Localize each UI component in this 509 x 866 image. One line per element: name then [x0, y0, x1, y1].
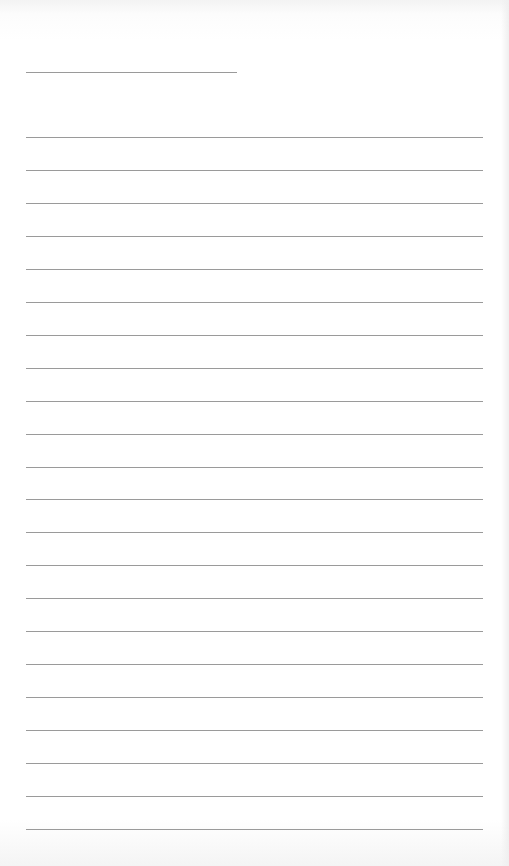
ruled-line	[26, 565, 483, 566]
ruled-line	[26, 236, 483, 237]
ruled-line	[26, 763, 483, 764]
ruled-line	[26, 170, 483, 171]
ruled-line	[26, 269, 483, 270]
ruled-line	[26, 631, 483, 632]
ruled-line	[26, 137, 483, 138]
ruled-line	[26, 368, 483, 369]
ruled-line	[26, 598, 483, 599]
ruled-line	[26, 664, 483, 665]
ruled-line	[26, 532, 483, 533]
ruled-line	[26, 697, 483, 698]
ruled-line	[26, 302, 483, 303]
lined-paper-sheet	[0, 0, 509, 866]
header-line	[26, 72, 237, 73]
ruled-line	[26, 796, 483, 797]
ruled-line	[26, 467, 483, 468]
ruled-line	[26, 335, 483, 336]
ruled-line	[26, 829, 483, 830]
ruled-line	[26, 499, 483, 500]
ruled-line	[26, 730, 483, 731]
ruled-line	[26, 434, 483, 435]
paper-edge-shadow	[501, 0, 509, 866]
ruled-line	[26, 401, 483, 402]
ruled-line	[26, 203, 483, 204]
